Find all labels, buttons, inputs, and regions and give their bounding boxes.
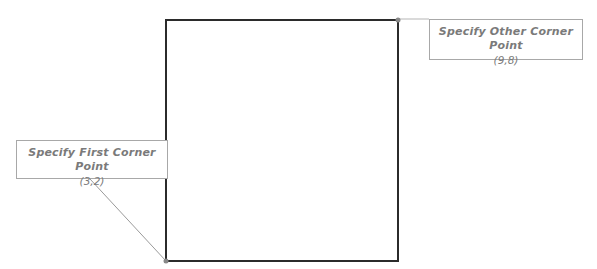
other-corner-callout: Specify Other Corner Point (9,8) <box>429 19 583 60</box>
first-corner-point-icon <box>164 259 169 264</box>
first-corner-callout: Specify First Corner Point (3,2) <box>16 140 168 179</box>
first-corner-label: Specify First Corner Point <box>17 146 167 174</box>
first-corner-coord: (3,2) <box>17 174 167 188</box>
other-corner-point-icon <box>396 18 401 23</box>
first-corner-leader-line <box>90 179 166 261</box>
rectangle-shape <box>166 20 398 261</box>
other-corner-label: Specify Other Corner Point <box>430 25 582 53</box>
other-corner-coord: (9,8) <box>430 53 582 67</box>
